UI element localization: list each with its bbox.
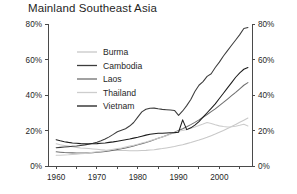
series-line-cambodia: [56, 28, 248, 148]
y-axis-tick-label-right: 80%: [258, 20, 274, 29]
x-axis-tick-label: 2000: [210, 173, 229, 182]
x-axis-tick-label: 1980: [129, 173, 148, 182]
legend-label-thailand: Thailand: [103, 88, 136, 98]
legend-label-vietnam: Vietnam: [103, 101, 134, 111]
y-axis-tick-label-left: 0%: [30, 162, 42, 171]
chart-plot-area: 0%0%20%20%40%40%60%60%80%80%196019701980…: [0, 0, 297, 194]
series-group: [56, 28, 248, 156]
y-axis-tick-label-left: 40%: [26, 91, 42, 100]
legend-label-cambodia: Cambodia: [103, 61, 142, 71]
x-axis-tick-label: 1990: [169, 173, 188, 182]
y-axis-tick-label-right: 60%: [258, 56, 274, 65]
x-axis-tick-label: 1970: [88, 173, 107, 182]
x-axis-tick-label: 1960: [47, 173, 66, 182]
y-axis-tick-label-left: 20%: [26, 127, 42, 136]
y-axis-tick-label-right: 40%: [258, 91, 274, 100]
y-axis-tick-label-right: 0%: [258, 162, 270, 171]
chart-legend: BurmaCambodiaLaosThailandVietnam: [77, 47, 142, 111]
y-axis-tick-label-left: 60%: [26, 56, 42, 65]
legend-label-burma: Burma: [103, 47, 129, 57]
axes-group: 0%0%20%20%40%40%60%60%80%80%196019701980…: [26, 20, 275, 182]
series-line-thailand: [56, 123, 248, 156]
legend-label-laos: Laos: [103, 74, 122, 84]
chart-container: Mainland Southeast Asia 0%0%20%20%40%40%…: [0, 0, 297, 194]
y-axis-tick-label-right: 20%: [258, 127, 274, 136]
y-axis-tick-label-left: 80%: [26, 20, 42, 29]
